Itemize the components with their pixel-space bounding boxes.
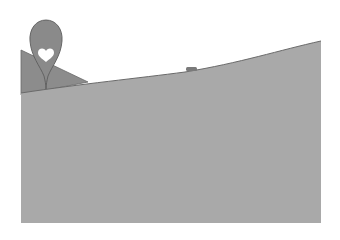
landscape-illustration bbox=[0, 0, 340, 240]
rock-shape bbox=[186, 67, 197, 71]
ground-shape bbox=[21, 41, 321, 223]
